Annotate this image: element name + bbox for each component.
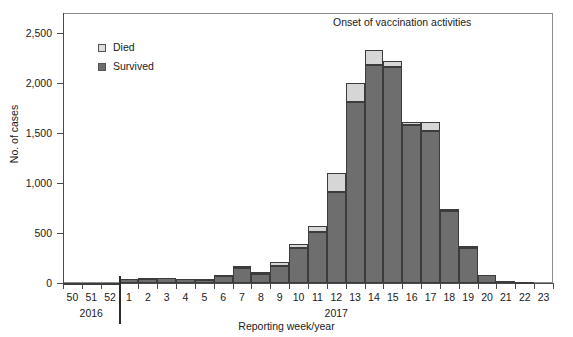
bar-column <box>195 279 214 283</box>
x-tick-mark <box>553 284 554 289</box>
x-tick-mark <box>233 284 234 289</box>
x-tick-mark <box>138 284 139 289</box>
bar-segment-survived <box>101 283 120 285</box>
x-tick-mark <box>365 284 366 289</box>
bar-column <box>496 281 515 284</box>
bar-segment-survived <box>440 211 459 284</box>
y-tick-mark <box>57 83 63 84</box>
x-tick-mark <box>402 284 403 289</box>
x-tick-mark <box>308 284 309 289</box>
onset-marker-line <box>119 276 121 324</box>
y-tick-label: 1,000 <box>5 178 52 188</box>
legend-label: Died <box>113 42 135 53</box>
bar-segment-died <box>327 173 346 192</box>
bar-column <box>478 275 497 284</box>
bar-segment-survived <box>176 279 195 283</box>
bar-segment-survived <box>327 192 346 284</box>
legend-swatch-survived-icon <box>98 63 106 71</box>
x-tick-mark <box>440 284 441 289</box>
bar-segment-survived <box>195 280 214 284</box>
bar-segment-survived <box>63 283 82 285</box>
x-tick-mark <box>63 284 64 289</box>
bar-segment-survived <box>459 248 478 284</box>
x-tick-mark <box>496 284 497 289</box>
x-tick-mark <box>195 284 196 289</box>
bar-column <box>421 122 440 283</box>
x-tick-mark <box>157 284 158 289</box>
bar-column <box>120 279 139 284</box>
bar-segment-died <box>365 50 384 65</box>
x-tick-mark <box>82 284 83 289</box>
bar-segment-survived <box>251 274 270 283</box>
bar-column <box>101 283 120 284</box>
bar-segment-survived <box>383 67 402 284</box>
bar-column <box>233 266 252 283</box>
bar-column <box>308 226 327 284</box>
year-group-label: 2017 <box>306 307 366 319</box>
bar-segment-survived <box>421 131 440 283</box>
x-tick-mark <box>251 284 252 289</box>
bar-column <box>365 50 384 283</box>
bar-column <box>289 244 308 283</box>
bar-column <box>251 272 270 283</box>
bar-column <box>270 262 289 283</box>
year-group-label: 2016 <box>61 307 121 319</box>
x-tick-mark <box>421 284 422 289</box>
legend-label: Survived <box>113 61 154 72</box>
x-tick-mark <box>270 284 271 289</box>
bar-segment-survived <box>157 278 176 283</box>
x-tick-mark <box>459 284 460 289</box>
bar-column <box>157 278 176 284</box>
y-tick-mark <box>57 233 63 234</box>
x-tick-mark <box>101 284 102 289</box>
x-tick-mark <box>214 284 215 289</box>
y-tick-label: 2,500 <box>5 28 52 38</box>
y-tick-mark <box>57 183 63 184</box>
bar-column <box>515 282 534 283</box>
x-tick-mark <box>346 284 347 289</box>
x-tick-mark <box>515 284 516 289</box>
bar-column <box>440 209 459 284</box>
bar-segment-died <box>346 83 365 102</box>
bar-column <box>214 275 233 283</box>
bar-segment-survived <box>346 102 365 283</box>
y-axis-line <box>63 13 64 284</box>
x-tick-mark <box>176 284 177 289</box>
y-tick-label: 1,500 <box>5 128 52 138</box>
y-tick-label: 2,000 <box>5 78 52 88</box>
y-tick-mark <box>57 33 63 34</box>
bar-segment-died <box>421 122 440 131</box>
x-tick-label: 23 <box>530 291 557 303</box>
bar-column <box>82 283 101 284</box>
chart-legend: DiedSurvived <box>98 40 154 78</box>
bar-segment-survived <box>270 266 289 284</box>
bar-column <box>402 122 421 284</box>
onset-annotation-label: Onset of vaccination activities <box>333 16 471 28</box>
bar-segment-survived <box>496 281 515 284</box>
bar-segment-survived <box>478 275 497 283</box>
bar-column <box>63 283 82 284</box>
legend-swatch-died-icon <box>98 44 106 52</box>
chart-figure: No. of cases 05001,0001,5002,0002,500 50… <box>0 0 573 337</box>
bar-column <box>138 278 157 283</box>
bar-segment-survived <box>233 268 252 283</box>
x-tick-mark <box>383 284 384 289</box>
bar-segment-survived <box>365 65 384 283</box>
x-tick-mark <box>327 284 328 289</box>
x-tick-mark <box>289 284 290 289</box>
bar-segment-survived <box>120 279 139 283</box>
legend-item: Survived <box>98 59 154 74</box>
x-axis-title: Reporting week/year <box>0 320 573 332</box>
legend-item: Died <box>98 40 154 55</box>
x-tick-mark <box>534 284 535 289</box>
bar-segment-survived <box>82 283 101 285</box>
y-tick-label: 0 <box>5 278 52 288</box>
bar-segment-survived <box>289 248 308 284</box>
bar-segment-survived <box>515 282 534 284</box>
y-tick-label: 500 <box>5 228 52 238</box>
bar-segment-survived <box>308 232 327 283</box>
bar-column <box>176 279 195 284</box>
bar-column <box>383 61 402 284</box>
bar-segment-survived <box>138 279 157 284</box>
bar-segment-survived <box>214 276 233 283</box>
